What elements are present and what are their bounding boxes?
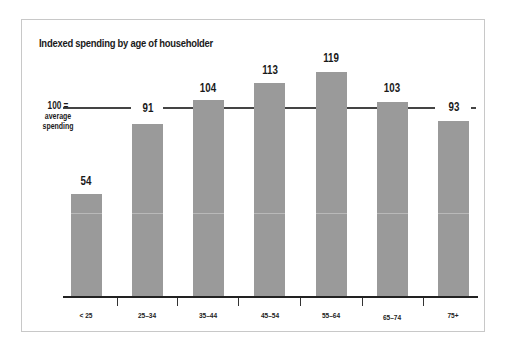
average-line-segment [224,107,254,109]
value-label: 104 [185,81,232,95]
x-axis [63,296,478,298]
value-label: 91 [125,101,172,115]
value-label: 103 [369,81,416,95]
average-line-segment [285,107,316,109]
bar-65-74 [377,102,408,297]
average-label-line3: spending [33,121,82,131]
x-axis-tick [117,298,118,306]
chart-title: Indexed spending by age of householder [39,37,213,49]
value-label: 119 [308,51,355,65]
bar-45-54 [254,83,285,297]
x-axis-tick [300,298,301,306]
bar-75-plus [438,121,469,297]
x-axis-tick [423,298,424,306]
x-axis-tick [238,298,239,306]
average-reference-label: 100 = average spending [33,101,82,131]
value-label: 93 [431,100,478,114]
category-label: < 25 [61,311,110,320]
bar-25-34 [132,124,163,297]
x-axis-tick [177,298,178,306]
category-label: 35–44 [183,311,232,320]
value-label: 54 [63,174,110,188]
bar-35-44 [193,100,224,297]
category-label: 55–64 [306,311,355,320]
category-label: 75+ [428,311,477,320]
average-line-segment [347,107,377,109]
average-label-value: 100 = [33,101,82,111]
bar-55-64 [316,72,347,297]
value-label: 113 [247,63,294,77]
bar-under-25 [71,194,102,297]
category-label: 65–74 [367,313,416,322]
category-label: 25–34 [122,311,171,320]
category-label: 45–54 [245,311,294,320]
x-axis-tick [362,298,363,306]
average-label-line2: average [33,111,82,121]
